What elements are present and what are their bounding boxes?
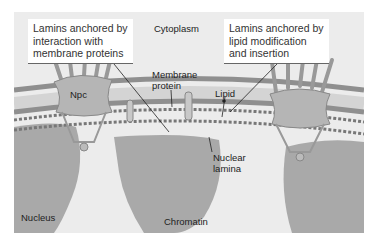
callout-lipid-modification: Lamins anchored by lipid modification an…: [224, 19, 329, 64]
label-cytoplasm: Cytoplasm: [154, 23, 199, 34]
label-nuclear-lamina-line1: Nuclear: [213, 152, 246, 163]
label-membrane-protein: Membrane protein: [152, 69, 197, 91]
label-nuclear-lamina: Nuclear lamina: [213, 152, 246, 174]
label-chromatin: Chromatin: [164, 216, 208, 227]
chromatin-right: [284, 140, 364, 233]
label-npc: Npc: [70, 89, 87, 100]
label-nucleus: Nucleus: [21, 212, 55, 223]
label-membrane-protein-line2: protein: [152, 80, 197, 91]
label-membrane-protein-line1: Membrane: [152, 69, 197, 80]
label-nuclear-lamina-line2: lamina: [213, 163, 246, 174]
callout-membrane-proteins: Lamins anchored by interaction with memb…: [28, 19, 133, 64]
label-lipid: Lipid: [215, 88, 235, 99]
membrane-protein-left: [127, 100, 133, 122]
nuclear-envelope-diagram: Lamins anchored by interaction with memb…: [14, 12, 364, 233]
membrane-protein-center: [185, 92, 192, 120]
